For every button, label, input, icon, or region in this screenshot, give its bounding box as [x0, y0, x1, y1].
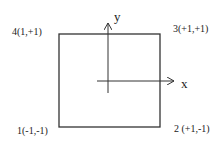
corner-label-3: 3(+1,+1) — [173, 24, 208, 34]
corner-label-2: 2 (+1,-1) — [174, 124, 210, 134]
x-axis-label: x — [181, 77, 188, 90]
y-axis-label: y — [114, 10, 121, 23]
corner-label-4: 4(1,+1) — [12, 27, 42, 37]
corner-label-1: 1(-1,-1) — [17, 126, 48, 136]
